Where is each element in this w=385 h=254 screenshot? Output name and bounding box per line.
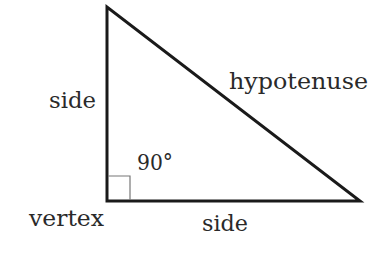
right-triangle-diagram: side hypotenuse 90° vertex side [0,0,385,254]
angle-label: 90° [137,150,173,175]
vertex-label: vertex [28,206,105,231]
right-angle-marker [108,176,130,200]
bottom-side-label: side [202,211,248,236]
hypotenuse-label: hypotenuse [229,69,368,94]
left-side-label: side [49,88,96,113]
